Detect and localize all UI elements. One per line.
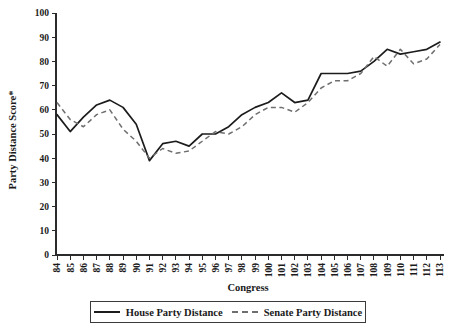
chart-figure: 0102030405060708090100 84858687888990919… [0,0,453,333]
y-axis-tick-label: 70 [40,81,50,91]
x-axis: 8485868788899091929394959697989910010110… [52,255,445,277]
x-axis-tick-label: 100 [264,263,274,278]
x-axis-tick-label: 86 [79,263,89,273]
x-axis-tick-label: 90 [132,263,142,273]
x-axis-tick-label: 101 [277,263,287,278]
chart-legend: House Party Distance Senate Party Distan… [90,301,366,323]
y-axis-tick-label: 60 [40,105,50,115]
x-axis-tick-label: 109 [383,263,393,278]
party-distance-line-chart: 0102030405060708090100 84858687888990919… [0,0,453,333]
x-axis-tick-label: 93 [171,263,181,273]
legend-swatch-dashed-icon [232,311,258,313]
y-axis-tick-label: 20 [40,202,50,212]
x-axis-tick-label: 89 [118,263,128,273]
x-axis-tick-label: 88 [105,263,115,273]
y-axis-tick-label: 50 [40,129,50,139]
x-axis-tick-label: 98 [237,263,247,273]
chart-series-group [57,42,440,161]
y-axis-tick-label: 80 [40,57,50,67]
y-axis-tick-label: 0 [44,250,49,260]
y-axis-tick-label: 10 [40,226,50,236]
x-axis-tick-label: 92 [158,263,168,273]
x-axis-tick-label: 99 [251,263,261,273]
y-axis-tick-label: 40 [40,154,50,164]
y-axis-tick-label: 90 [40,33,50,43]
y-axis: 0102030405060708090100 [35,8,56,260]
y-axis-title: Party Distance Score* [7,91,18,190]
x-axis-tick-label: 113 [435,263,445,277]
x-axis-tick-label: 106 [343,263,353,278]
x-axis-tick-label: 91 [145,263,155,273]
series-line-senate [57,44,440,158]
x-axis-tick-label: 102 [290,263,300,278]
y-axis-tick-label: 100 [35,8,50,18]
x-axis-title: Congress [227,282,268,293]
x-axis-tick-label: 84 [52,263,62,273]
series-line-house [57,42,440,161]
legend-entry-house: House Party Distance [94,307,223,318]
x-axis-tick-label: 97 [224,263,234,273]
x-axis-tick-label: 85 [66,263,76,273]
x-axis-tick-label: 107 [356,263,366,278]
x-axis-tick-label: 111 [409,263,419,276]
legend-label-house: House Party Distance [126,307,223,318]
legend-entry-senate: Senate Party Distance [232,307,363,318]
x-axis-tick-label: 103 [303,263,313,278]
y-axis-tick-label: 30 [40,178,50,188]
x-axis-tick-label: 96 [211,263,221,273]
x-axis-tick-label: 105 [330,263,340,278]
x-axis-tick-label: 108 [369,263,379,278]
x-axis-tick-label: 87 [92,263,102,273]
x-axis-tick-label: 94 [184,263,194,273]
legend-label-senate: Senate Party Distance [264,307,363,318]
x-axis-tick-label: 110 [396,263,406,277]
legend-swatch-solid-icon [94,311,120,313]
x-axis-tick-label: 104 [317,263,327,278]
x-axis-tick-label: 95 [198,263,208,273]
x-axis-tick-label: 112 [422,263,432,277]
